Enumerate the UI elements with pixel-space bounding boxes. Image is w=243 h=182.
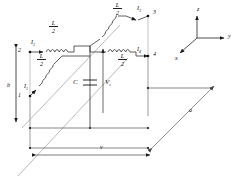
coordinate-axes <box>180 16 224 53</box>
branch-top-left <box>30 46 90 52</box>
node-label-2: 2 <box>18 47 21 53</box>
voltage-label: Vc <box>105 79 111 87</box>
inductor-label-bottom-left: L2 <box>37 53 46 67</box>
axis-label-x: x <box>175 55 178 61</box>
capacitor-label: C <box>73 79 78 86</box>
dimension-label-b: b <box>7 82 10 88</box>
node-label-1: 1 <box>18 92 21 98</box>
inductor-label-top-left: L2 <box>49 20 58 34</box>
branch-top-right <box>90 15 148 46</box>
circuit-drawing <box>0 0 243 182</box>
node-label-4: 4 <box>153 51 156 57</box>
current-label-I2: I2 <box>31 39 35 47</box>
current-label-I4: I4 <box>137 46 141 54</box>
current-label-I1: I1 <box>24 83 28 91</box>
dimension-label-a: a <box>189 107 192 113</box>
node-label-3: 3 <box>153 9 156 15</box>
current-label-I3: I3 <box>137 5 141 13</box>
perspective-guides <box>18 25 128 176</box>
node-dots <box>29 15 150 129</box>
axis-label-y: y <box>228 33 231 39</box>
axis-label-z: z <box>197 6 199 12</box>
dimension-a-line <box>152 86 214 148</box>
inductor-label-top-right: L2 <box>113 2 122 16</box>
figure-canvas: 1 2 3 4 I1 I2 I3 I4 L2 L2 L2 L2 C Vc b a… <box>0 0 243 182</box>
inductor-label-bottom-right: L2 <box>118 53 127 67</box>
ground-plane <box>30 88 213 148</box>
dimension-label-v: v <box>100 144 103 150</box>
ground-plane-dots <box>29 127 149 149</box>
